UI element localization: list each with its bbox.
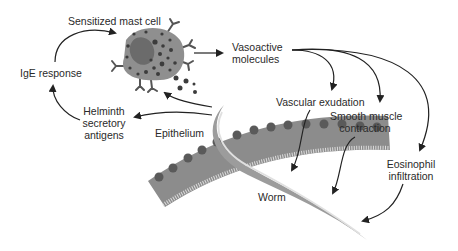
label-smooth-line1: Smooth muscle — [330, 110, 400, 122]
label-eosinophil-line1: Eosinophil — [384, 158, 438, 170]
label-vasoactive: Vasoactive molecules — [232, 41, 283, 65]
label-helminth-line2: secretory — [80, 117, 128, 129]
label-vasoactive-line1: Vasoactive — [232, 41, 283, 53]
mast-cell-shape — [112, 19, 197, 94]
label-helminth-line3: antigens — [80, 129, 128, 141]
label-helminth-antigens: Helminth secretory antigens — [80, 105, 128, 141]
label-smooth-line2: contraction — [330, 122, 400, 134]
label-eosinophil-line2: infiltration — [384, 170, 438, 182]
label-epithelium: Epithelium — [155, 127, 204, 139]
label-mast-cell: Sensitized mast cell — [68, 15, 161, 27]
label-vasoactive-line2: molecules — [232, 53, 283, 65]
label-vascular-exudation: Vascular exudation — [276, 96, 365, 108]
label-ige-response: IgE response — [20, 67, 82, 79]
label-smooth-muscle: Smooth muscle contraction — [330, 110, 400, 134]
label-worm: Worm — [258, 191, 286, 203]
label-eosinophil: Eosinophil infiltration — [384, 158, 438, 182]
label-helminth-line1: Helminth — [80, 105, 128, 117]
